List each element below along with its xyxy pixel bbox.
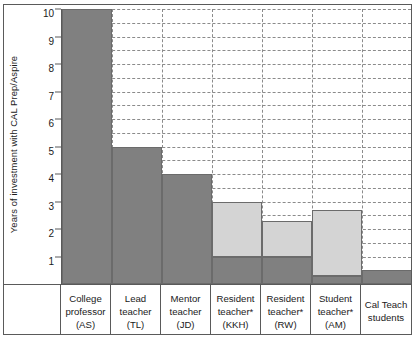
y-axis-tick-mark: [55, 256, 61, 257]
bar: [362, 9, 411, 284]
bar-segment-light: [212, 202, 262, 257]
category-label-line: Cal Teach: [365, 298, 408, 311]
y-axis-tick-label: 2: [25, 228, 55, 239]
category-label-line: Lead: [125, 292, 146, 305]
y-axis-tick-label: 4: [25, 173, 55, 184]
category-label-line: (KKH): [222, 318, 248, 331]
y-axis-tick-label: 5: [25, 145, 55, 156]
chart-figure: Years of investment with CAL Prep/Aspire…: [0, 0, 415, 339]
y-axis-tick-mark: [55, 201, 61, 202]
y-axis-tick-mark: [55, 9, 61, 10]
y-axis-tick-label: 7: [25, 90, 55, 101]
category-label-cell: Residentteacher*(RW): [261, 285, 311, 335]
y-axis-tick-mark: [55, 64, 61, 65]
y-axis-title-text: Years of investment with CAL Prep/Aspire: [9, 55, 20, 232]
category-label-line: (AS): [76, 318, 95, 331]
y-axis-tick-mark: [55, 36, 61, 37]
category-label-line: students: [368, 311, 404, 324]
bar: [262, 9, 312, 284]
bar-segment-dark: [362, 270, 411, 284]
y-axis-tick-labels: 12345678910: [25, 4, 55, 284]
y-axis-tick-label: 6: [25, 118, 55, 129]
y-axis-tick-label: 10: [25, 8, 55, 19]
bar: [162, 9, 212, 284]
category-label-line: College: [69, 292, 102, 305]
y-axis-tick-label: 3: [25, 200, 55, 211]
category-label-line: teacher*: [318, 305, 354, 318]
bar-segment-light: [312, 210, 362, 276]
category-label-cell: Studentteacher*(AM): [311, 285, 361, 335]
category-label-cell: Cal Teachstudents: [361, 285, 411, 335]
y-axis-tick-mark: [55, 146, 61, 147]
y-axis-title: Years of investment with CAL Prep/Aspire: [3, 4, 25, 284]
bar-segment-dark: [262, 257, 312, 285]
category-label-line: Student: [319, 292, 352, 305]
y-axis-tick-mark: [55, 174, 61, 175]
category-label-line: teacher: [120, 305, 152, 318]
bar-segment-light: [262, 221, 312, 257]
category-label-line: (JD): [176, 318, 194, 331]
y-axis-tick-label: 1: [25, 255, 55, 266]
category-label-line: teacher*: [218, 305, 254, 318]
bar: [312, 9, 362, 284]
category-label-line: teacher*: [268, 305, 304, 318]
bar-segment-dark: [212, 257, 262, 285]
category-label-cell: Collegeprofessor(AS): [61, 285, 111, 335]
category-label-line: Resident: [217, 292, 255, 305]
bar-segment-dark: [162, 174, 212, 284]
bar: [112, 9, 162, 284]
category-strip-spacer: [3, 285, 61, 335]
category-label-line: professor: [66, 305, 106, 318]
category-label-cell: Residentteacher*(KKH): [211, 285, 261, 335]
y-axis-tick-label: 8: [25, 63, 55, 74]
category-label-cell: Leadteacher(TL): [111, 285, 161, 335]
bar-segment-dark: [312, 276, 362, 284]
category-label-line: teacher: [170, 305, 202, 318]
category-label-line: Resident: [267, 292, 305, 305]
y-axis-tick-label: 9: [25, 35, 55, 46]
category-label-line: Mentor: [171, 292, 201, 305]
y-axis-tick-mark: [55, 119, 61, 120]
y-axis-tick-mark: [55, 229, 61, 230]
bar-segment-dark: [112, 147, 162, 285]
category-label-strip: Collegeprofessor(AS)Leadteacher(TL)Mento…: [3, 284, 412, 335]
bar-segment-dark: [62, 9, 112, 284]
category-label-line: (RW): [274, 318, 296, 331]
bar: [62, 9, 112, 284]
plot-area: [61, 9, 411, 284]
category-label-cell: Mentorteacher(JD): [161, 285, 211, 335]
bar: [212, 9, 262, 284]
y-axis-tick-mark: [55, 91, 61, 92]
category-label-line: (TL): [127, 318, 145, 331]
category-label-line: (AM): [325, 318, 346, 331]
